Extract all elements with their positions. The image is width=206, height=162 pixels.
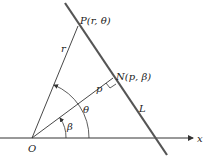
polar-line-diagram: P(r, θ) N(p, β) O r p L θ β x [0,0,206,162]
label-O: O [28,143,36,154]
label-r: r [61,43,67,54]
label-beta: β [66,121,73,132]
label-x-axis: x [197,133,203,144]
beta-arc [60,118,66,138]
label-p: p [96,83,103,94]
label-P: P(r, θ) [79,15,111,26]
right-angle-marker [106,83,116,88]
label-theta: θ [83,104,89,115]
label-N: N(p, β) [115,71,151,82]
label-L: L [138,103,146,114]
